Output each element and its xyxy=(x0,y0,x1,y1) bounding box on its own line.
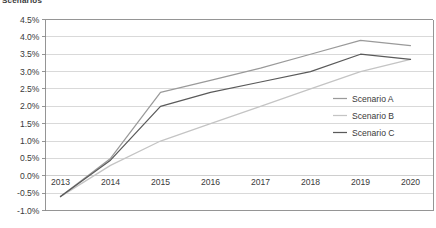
y-axis-tick-label: 4.5% xyxy=(20,15,40,25)
y-axis-labels-group: 4.5%4.0%3.5%3.0%2.5%2.0%1.5%1.0%0.5%0.0%… xyxy=(17,15,40,216)
x-axis-tick-label: 2013 xyxy=(51,177,70,187)
y-axis-tick-label: 2.5% xyxy=(20,84,40,94)
y-axis-tick-label: -0.5% xyxy=(17,188,40,198)
chart-plot-area: 4.5%4.0%3.5%3.0%2.5%2.0%1.5%1.0%0.5%0.0%… xyxy=(0,0,436,228)
y-axis-tick-label: 0.5% xyxy=(20,153,40,163)
y-tick-marks-group xyxy=(42,20,46,211)
x-axis-tick-label: 2016 xyxy=(201,177,220,187)
line-chart: Scenarios 4.5%4.0%3.5%3.0%2.5%2.0%1.5%1.… xyxy=(0,0,436,228)
x-axis-tick-label: 2017 xyxy=(251,177,270,187)
legend-label-scenario-c: Scenario C xyxy=(352,128,395,138)
x-axis-tick-label: 2019 xyxy=(351,177,370,187)
legend-label-scenario-a: Scenario A xyxy=(352,94,394,104)
x-axis-labels-group: 20132014201520162017201820192020 xyxy=(51,177,420,187)
y-axis-tick-label: 0.0% xyxy=(20,171,40,181)
y-axis-tick-label: -1.0% xyxy=(17,206,40,216)
x-axis-tick-label: 2014 xyxy=(101,177,120,187)
chart-legend: Scenario AScenario BScenario C xyxy=(333,94,395,138)
y-axis-tick-label: 2.0% xyxy=(20,101,40,111)
y-axis-tick-label: 4.0% xyxy=(20,32,40,42)
series-line-scenario-c xyxy=(61,54,411,196)
x-axis-tick-label: 2018 xyxy=(301,177,320,187)
y-axis-tick-label: 1.5% xyxy=(20,119,40,129)
x-axis-tick-label: 2015 xyxy=(151,177,170,187)
y-axis-tick-label: 3.0% xyxy=(20,67,40,77)
y-axis-tick-label: 1.0% xyxy=(20,136,40,146)
x-axis-tick-label: 2020 xyxy=(401,177,420,187)
legend-label-scenario-b: Scenario B xyxy=(352,111,394,121)
y-axis-tick-label: 3.5% xyxy=(20,49,40,59)
